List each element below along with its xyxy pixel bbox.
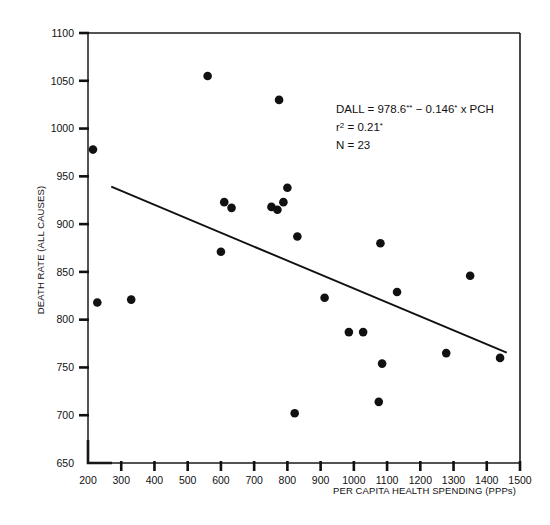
data-point: [89, 145, 98, 154]
y-axis-tick-label: 1050: [51, 75, 75, 87]
x-axis-tick-label: 400: [146, 474, 164, 486]
data-point: [320, 293, 329, 302]
data-point: [93, 298, 102, 307]
data-point: [345, 328, 354, 337]
x-axis-tick-label: 900: [312, 474, 330, 486]
data-point: [275, 96, 284, 105]
y-axis-tick-label: 650: [56, 457, 74, 469]
y-axis-tick-label: 750: [56, 361, 74, 373]
sample-size-text: N = 23: [336, 139, 370, 151]
data-point: [442, 349, 451, 358]
plot-background: [0, 0, 550, 525]
data-point: [466, 271, 475, 280]
data-point: [496, 354, 505, 363]
data-point: [283, 184, 292, 193]
x-axis-tick-label: 200: [79, 474, 97, 486]
data-point: [376, 239, 385, 248]
data-point: [393, 288, 402, 297]
data-point: [293, 232, 302, 241]
data-point: [374, 398, 383, 407]
x-axis-tick-label: 500: [179, 474, 197, 486]
data-point: [217, 248, 226, 257]
x-axis-tick-label: 300: [112, 474, 130, 486]
data-point: [290, 409, 299, 418]
y-axis-tick-label: 1100: [51, 27, 74, 39]
y-axis-tick-label: 700: [56, 409, 74, 421]
y-axis-title: DEATH RATE (ALL CAUSES): [35, 186, 46, 314]
x-axis-title: PER CAPITA HEALTH SPENDING (PPPs): [333, 485, 516, 496]
x-axis-tick-label: 600: [212, 474, 230, 486]
data-point: [220, 198, 229, 207]
data-point: [127, 295, 136, 304]
data-point: [378, 359, 387, 368]
y-axis-tick-label: 800: [56, 313, 74, 325]
equation-text: DALL = 978.6** − 0.146* x PCH: [336, 103, 494, 116]
data-point: [273, 205, 282, 214]
x-axis-tick-label: 800: [279, 474, 297, 486]
data-point: [279, 198, 288, 207]
figure-container: 650700750800850900950100010501100 200300…: [0, 0, 550, 525]
data-point: [359, 328, 368, 337]
scatter-plot: 650700750800850900950100010501100 200300…: [0, 0, 550, 525]
data-point: [227, 204, 236, 213]
y-axis-tick-label: 1000: [51, 122, 75, 134]
y-axis-tick-label: 900: [56, 218, 74, 230]
data-point: [203, 72, 212, 81]
x-axis-tick-label: 700: [245, 474, 263, 486]
y-axis-tick-label: 850: [56, 266, 74, 278]
y-axis-tick-label: 950: [56, 170, 74, 182]
